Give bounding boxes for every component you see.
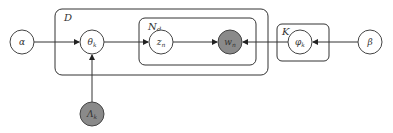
node-beta: β (358, 30, 382, 54)
node-lambda-observed: Λk (80, 102, 104, 126)
plate-K-label: K (281, 26, 290, 37)
node-theta: θk (80, 30, 104, 54)
node-w-observed: wn (218, 30, 242, 54)
svg-text:β: β (366, 37, 372, 47)
node-phi: φk (288, 30, 312, 54)
plate-D-label: D (63, 12, 72, 23)
svg-text:α: α (19, 37, 25, 47)
node-z: zn (149, 30, 173, 54)
node-alpha: α (10, 30, 34, 54)
graphical-model: D Nd K α θk zn wn φk β Λk (0, 0, 393, 133)
